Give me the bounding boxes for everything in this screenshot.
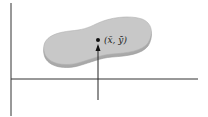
centroid-point xyxy=(96,38,100,42)
centroid-diagram: (x̄, ȳ) xyxy=(0,0,208,117)
centroid-label: (x̄, ȳ) xyxy=(104,35,127,45)
